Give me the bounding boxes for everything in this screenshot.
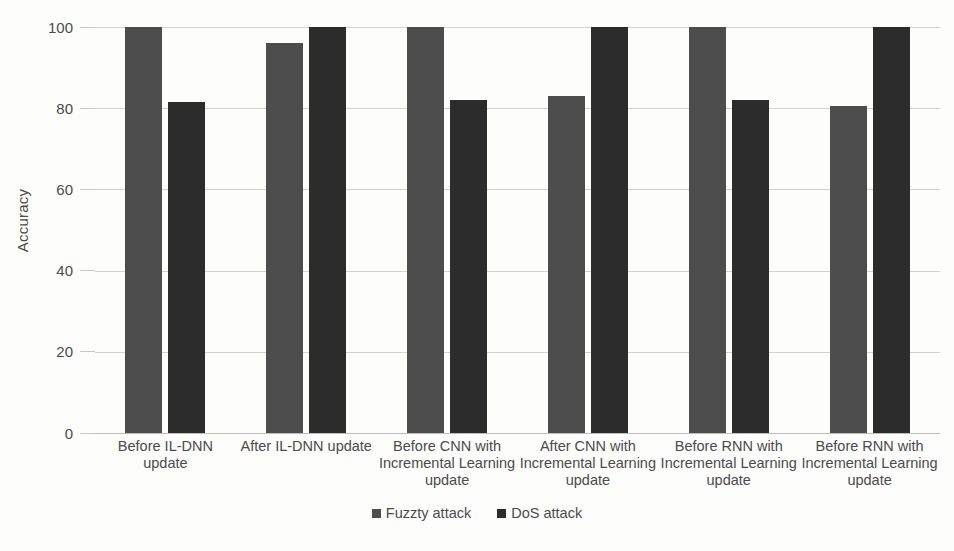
x-axis-category-label: After CNN with Incremental Learning upda… bbox=[517, 438, 658, 500]
bar[interactable] bbox=[450, 100, 487, 433]
legend-swatch-icon bbox=[497, 509, 506, 518]
y-tick-dash bbox=[80, 270, 95, 271]
bar[interactable] bbox=[266, 43, 303, 433]
x-axis-category-label: Before IL-DNN update bbox=[95, 438, 236, 500]
bar-group bbox=[236, 27, 377, 433]
plot-area bbox=[95, 27, 940, 433]
accuracy-bar-chart: Accuracy 020406080100 Before IL-DNN upda… bbox=[0, 0, 954, 551]
bars-layer bbox=[95, 27, 940, 433]
x-axis-category-label: Before RNN with Incremental Learning upd… bbox=[658, 438, 799, 500]
bar[interactable] bbox=[732, 100, 769, 433]
x-axis-category-label: Before CNN with Incremental Learning upd… bbox=[377, 438, 518, 500]
y-tick-dash bbox=[80, 108, 95, 109]
x-axis-category-label: After IL-DNN update bbox=[236, 438, 377, 500]
bar[interactable] bbox=[548, 96, 585, 433]
legend-item[interactable]: Fuzzty attack bbox=[372, 505, 471, 521]
bar[interactable] bbox=[407, 27, 444, 433]
x-axis-category-label: Before RNN with Incremental Learning upd… bbox=[799, 438, 940, 500]
y-tick-label: 60 bbox=[56, 182, 80, 197]
bar[interactable] bbox=[873, 27, 910, 433]
bar-group bbox=[95, 27, 236, 433]
y-tick-label: 0 bbox=[65, 426, 80, 441]
bar-group bbox=[377, 27, 518, 433]
chart-legend: Fuzzty attackDoS attack bbox=[0, 505, 954, 521]
bar-group bbox=[517, 27, 658, 433]
gridline-0 bbox=[95, 433, 940, 434]
y-tick-label: 40 bbox=[56, 263, 80, 278]
legend-item-label: DoS attack bbox=[511, 505, 582, 521]
legend-item-label: Fuzzty attack bbox=[386, 505, 471, 521]
y-axis-ticks: 020406080100 bbox=[0, 27, 95, 433]
y-tick-dash bbox=[80, 27, 95, 28]
bar[interactable] bbox=[168, 102, 205, 433]
y-tick-label: 80 bbox=[56, 101, 80, 116]
bar-group bbox=[799, 27, 940, 433]
x-axis-category-labels: Before IL-DNN updateAfter IL-DNN updateB… bbox=[95, 438, 940, 500]
bar[interactable] bbox=[689, 27, 726, 433]
legend-item[interactable]: DoS attack bbox=[497, 505, 582, 521]
y-tick-dash bbox=[80, 189, 95, 190]
bar[interactable] bbox=[125, 27, 162, 433]
bar[interactable] bbox=[309, 27, 346, 433]
bar[interactable] bbox=[591, 27, 628, 433]
y-tick-label: 20 bbox=[56, 344, 80, 359]
bar-group bbox=[658, 27, 799, 433]
y-tick-dash bbox=[80, 351, 95, 352]
legend-swatch-icon bbox=[372, 509, 381, 518]
y-tick-dash bbox=[80, 433, 95, 434]
bar[interactable] bbox=[830, 106, 867, 433]
y-tick-label: 100 bbox=[48, 20, 80, 35]
